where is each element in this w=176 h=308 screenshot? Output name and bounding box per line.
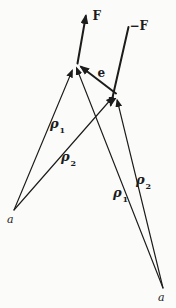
- rho2-right-symbol: ρ: [135, 172, 145, 187]
- vector-diagram-canvas: F −F e ρ 1 ρ 2 ρ 1 ρ 2 a a: [0, 0, 176, 308]
- rho2-left-subscript: 2: [71, 158, 77, 168]
- rho1-right-symbol: ρ: [112, 185, 122, 200]
- e-vector-label: e: [98, 66, 106, 80]
- rho1-right-label: ρ 1: [112, 185, 128, 204]
- rho1-left-symbol: ρ: [49, 116, 59, 131]
- force-negf-label: −F: [130, 19, 149, 33]
- rho2-right-subscript: 2: [146, 181, 152, 191]
- rho2-right-label: ρ 2: [135, 172, 151, 191]
- force-f-vector: [78, 16, 86, 64]
- origin-right-label: a: [158, 291, 165, 304]
- rho1-left-subscript: 1: [60, 125, 66, 135]
- rho1-left-label: ρ 1: [49, 116, 65, 135]
- force-couple-diagram: F −F e ρ 1 ρ 2 ρ 1 ρ 2 a a: [0, 0, 176, 308]
- rho2-left-symbol: ρ: [60, 149, 70, 164]
- origin-left-label: a: [7, 213, 14, 226]
- rho1-right-subscript: 1: [123, 194, 129, 204]
- rho1-right-vector: [77, 69, 163, 289]
- rho2-left-label: ρ 2: [60, 149, 76, 168]
- rho1-left-vector: [14, 71, 72, 210]
- force-f-label: F: [93, 9, 102, 23]
- force-negf-vector: [111, 27, 129, 105]
